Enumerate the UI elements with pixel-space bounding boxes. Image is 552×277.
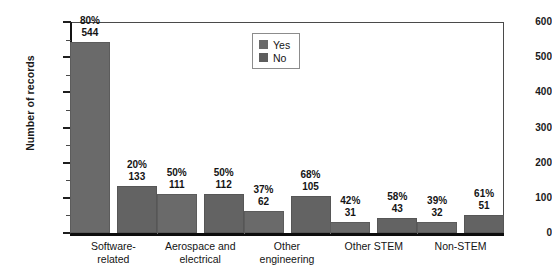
category-label: Software-related (70, 240, 157, 266)
category-label-line: Other (244, 240, 331, 253)
bar-value-label: 80%544 (60, 15, 120, 39)
bar (330, 222, 370, 233)
category-label: Otherengineering (244, 240, 331, 266)
legend-label-yes: Yes (273, 39, 290, 51)
bar-percent-label: 68% (281, 169, 341, 181)
bar-chart: Number of records 6005004003002001000 80… (0, 0, 552, 277)
category-label-line: engineering (244, 253, 331, 266)
y-tick-label: 600 (496, 16, 552, 27)
legend-swatch-no (259, 53, 268, 62)
category-label: Non-STEM (417, 240, 504, 253)
category-label-line: Non-STEM (417, 240, 504, 253)
bar-count-label: 105 (281, 181, 341, 193)
bar-count-label: 544 (60, 27, 120, 39)
bar (157, 194, 197, 233)
legend-item-yes: Yes (259, 38, 290, 51)
bar (377, 218, 417, 233)
category-label-line: Software- (70, 240, 157, 253)
bar-value-label: 61%51 (454, 188, 514, 212)
y-tick-label: 200 (496, 157, 552, 168)
y-tick-minor (66, 40, 71, 41)
bar (117, 186, 157, 233)
legend-label-no: No (273, 52, 286, 64)
y-tick-label: 300 (496, 122, 552, 133)
bar-value-label: 68%105 (281, 169, 341, 193)
chart-legend: Yes No (252, 33, 300, 69)
bar (244, 211, 284, 233)
legend-swatch-yes (259, 40, 268, 49)
bar-percent-label: 80% (60, 15, 120, 27)
bar (70, 42, 110, 233)
bar-count-label: 51 (454, 200, 514, 212)
bar-percent-label: 50% (194, 167, 254, 179)
bar (464, 215, 504, 233)
category-label-line: Other STEM (330, 240, 417, 253)
legend-item-no: No (259, 51, 290, 64)
bar-count-label: 62 (234, 196, 294, 208)
y-axis-title: Number of records (24, 3, 36, 203)
category-label-line: related (70, 253, 157, 266)
category-label: Aerospace andelectrical (157, 240, 244, 266)
category-label-line: electrical (157, 253, 244, 266)
y-tick-label: 0 (496, 227, 552, 238)
y-tick-label: 400 (496, 86, 552, 97)
category-label: Other STEM (330, 240, 417, 253)
x-axis-spine (70, 233, 504, 236)
bar (417, 222, 457, 233)
bar-percent-label: 61% (454, 188, 514, 200)
y-tick-label: 500 (496, 51, 552, 62)
category-label-line: Aerospace and (157, 240, 244, 253)
